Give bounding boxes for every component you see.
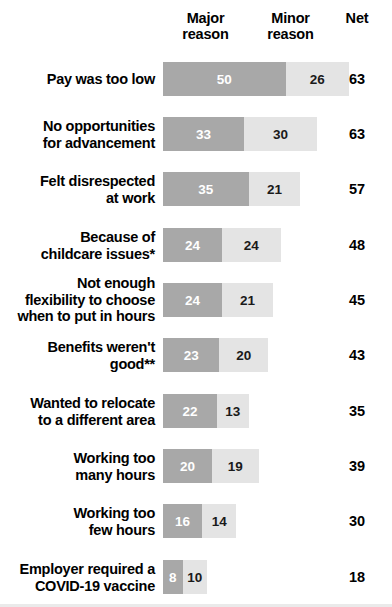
bar-segment-minor: 21: [222, 283, 273, 317]
chart-header: Major reason Minor reason Net: [0, 0, 392, 52]
bar-segment-major: 16: [163, 504, 202, 538]
chart-row: Wanted to relocate to a different area22…: [0, 394, 392, 428]
row-label: No opportunities for advancement: [0, 118, 155, 151]
stacked-bar: 5026: [163, 62, 349, 96]
row-label: Benefits weren't good**: [0, 339, 155, 372]
stacked-bar: 3330: [163, 117, 317, 151]
bar-segment-minor: 30: [244, 117, 318, 151]
row-net-value: 63: [336, 71, 378, 87]
row-label: Working too many hours: [0, 450, 155, 483]
row-net-value: 45: [336, 292, 378, 308]
bar-segment-minor: 13: [217, 394, 249, 428]
row-net-value: 39: [336, 458, 378, 474]
bar-segment-major: 8: [163, 560, 183, 594]
stacked-bar: 2424: [163, 228, 281, 262]
column-header-major-line1: Major: [187, 10, 225, 26]
bar-segment-minor: 21: [249, 172, 300, 206]
bar-segment-major: 22: [163, 394, 217, 428]
bar-segment-major: 35: [163, 172, 249, 206]
chart-row: Because of childcare issues*242448: [0, 228, 392, 262]
row-label: Wanted to relocate to a different area: [0, 395, 155, 428]
bar-segment-minor: 24: [222, 228, 281, 262]
row-label: Because of childcare issues*: [0, 229, 155, 262]
row-net-value: 57: [336, 181, 378, 197]
column-header-major-line2: reason: [163, 27, 248, 43]
stacked-bar: 2320: [163, 338, 268, 372]
row-net-value: 48: [336, 237, 378, 253]
bar-segment-minor: 20: [219, 338, 268, 372]
column-header-net-label: Net: [346, 10, 369, 26]
bar-segment-major: 24: [163, 228, 222, 262]
chart-row: Not enough flexibility to choose when to…: [0, 283, 392, 317]
reasons-for-quitting-chart: Major reason Minor reason Net Pay was to…: [0, 0, 392, 607]
row-label: Pay was too low: [0, 71, 155, 88]
bar-segment-major: 33: [163, 117, 244, 151]
stacked-bar: 1614: [163, 504, 236, 538]
stacked-bar: 3521: [163, 172, 300, 206]
row-net-value: 30: [336, 513, 378, 529]
bar-segment-minor: 10: [183, 560, 208, 594]
row-net-value: 43: [336, 347, 378, 363]
bar-segment-minor: 19: [212, 449, 259, 483]
column-header-minor-line1: Minor: [271, 10, 309, 26]
chart-row: Employer required a COVID-19 vaccine8101…: [0, 560, 392, 594]
row-net-value: 35: [336, 403, 378, 419]
bar-segment-major: 24: [163, 283, 222, 317]
bar-segment-major: 50: [163, 62, 286, 96]
row-label: Not enough flexibility to choose when to…: [0, 275, 155, 325]
row-label: Felt disrespected at work: [0, 173, 155, 206]
chart-row: No opportunities for advancement333063: [0, 117, 392, 151]
row-label: Working too few hours: [0, 505, 155, 538]
chart-row: Felt disrespected at work352157: [0, 172, 392, 206]
chart-row: Pay was too low502663: [0, 62, 392, 96]
column-header-major-reason: Major reason: [163, 11, 248, 42]
stacked-bar: 810: [163, 560, 207, 594]
chart-row: Benefits weren't good**232043: [0, 338, 392, 372]
column-header-minor-line2: reason: [248, 27, 333, 43]
column-header-net: Net: [336, 11, 378, 27]
row-net-value: 63: [336, 126, 378, 142]
bar-segment-major: 20: [163, 449, 212, 483]
row-label: Employer required a COVID-19 vaccine: [0, 561, 155, 594]
stacked-bar: 2019: [163, 449, 259, 483]
chart-row: Working too few hours161430: [0, 504, 392, 538]
stacked-bar: 2213: [163, 394, 249, 428]
row-net-value: 18: [336, 569, 378, 585]
bar-segment-major: 23: [163, 338, 219, 372]
stacked-bar: 2421: [163, 283, 273, 317]
bar-segment-minor: 14: [202, 504, 236, 538]
chart-row: Working too many hours201939: [0, 449, 392, 483]
column-header-minor-reason: Minor reason: [248, 11, 333, 42]
